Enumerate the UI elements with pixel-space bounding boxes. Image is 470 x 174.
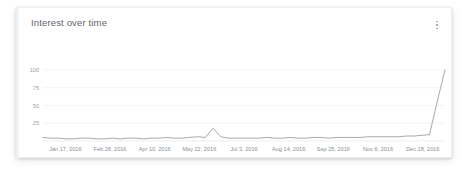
more-vert-icon[interactable] (429, 16, 445, 34)
page-title: Interest over time (31, 17, 107, 29)
x-axis-tick-label: Dec 18, 2016 (406, 146, 439, 152)
y-axis-tick-label: 75 (33, 85, 39, 91)
more-vert-dot-3 (436, 28, 438, 30)
x-axis-tick-label: Sep 25, 2016 (317, 146, 350, 152)
x-axis-tick-label: May 22, 2016 (182, 146, 216, 152)
y-axis-tick-label: 50 (33, 103, 39, 109)
x-axis-tick-label: Jul 3, 2016 (230, 146, 257, 152)
gridlines (43, 70, 445, 141)
interest-line-chart[interactable]: 100755025 Jan 17, 2016Feb 28, 2016Apr 10… (17, 40, 453, 159)
y-axis-tick-label: 25 (33, 120, 39, 126)
chart-plot-area[interactable]: 100755025 Jan 17, 2016Feb 28, 2016Apr 10… (17, 40, 453, 159)
y-axis-tick-label: 100 (30, 67, 39, 73)
y-axis-ticks: 100755025 (30, 67, 39, 126)
interest-over-time-card: Interest over time 100755025 Jan 17, 201… (16, 7, 452, 158)
interest-series-line (43, 70, 445, 139)
x-axis-tick-label: Jan 17, 2016 (49, 146, 81, 152)
x-axis-tick-label: Aug 14, 2016 (272, 146, 305, 152)
card-header: Interest over time (17, 8, 453, 40)
x-axis-ticks: Jan 17, 2016Feb 28, 2016Apr 10, 2016May … (49, 146, 439, 152)
x-axis-tick-label: Nov 6, 2016 (363, 146, 393, 152)
more-vert-dot-2 (436, 24, 438, 26)
more-vert-dot-1 (436, 21, 438, 23)
screenshot-root: Interest over time 100755025 Jan 17, 201… (0, 0, 470, 174)
x-axis-tick-label: Feb 28, 2016 (94, 146, 127, 152)
x-axis-tick-label: Apr 10, 2016 (139, 146, 171, 152)
